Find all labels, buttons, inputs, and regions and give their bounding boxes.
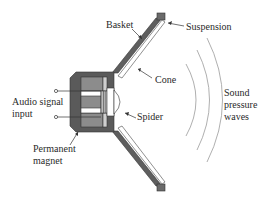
- label-cone: Cone: [155, 74, 176, 85]
- label-magnet-1: Permanent: [33, 143, 76, 154]
- label-audio-1: Audio signal: [12, 96, 63, 107]
- magnet-assembly: [70, 72, 120, 132]
- label-audio-2: input: [12, 108, 33, 119]
- label-sound-2: pressure: [224, 99, 257, 110]
- loudspeaker-diagram: Basket Suspension Cone Sound pressure wa…: [0, 0, 271, 204]
- label-sound-3: waves: [224, 111, 249, 122]
- label-basket: Basket: [106, 19, 133, 30]
- label-suspension: Suspension: [186, 21, 232, 32]
- sound-waves: [186, 38, 223, 162]
- basket-lower: [112, 131, 165, 191]
- label-magnet-2: magnet: [33, 155, 62, 166]
- label-sound-1: Sound: [224, 87, 250, 98]
- label-spider: Spider: [137, 111, 163, 122]
- cone-lower: [118, 126, 165, 184]
